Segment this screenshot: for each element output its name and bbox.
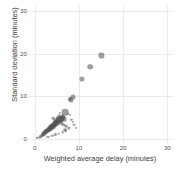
data-point — [88, 64, 94, 70]
data-point — [58, 132, 60, 134]
data-point — [99, 53, 104, 58]
x-axis-tick-labels: 0102030 — [0, 144, 176, 154]
gridline-horizontal — [28, 139, 174, 140]
y-axis-tick-labels: 0102030 — [7, 0, 27, 150]
data-point — [51, 134, 53, 136]
gridline-horizontal — [28, 96, 174, 97]
y-tick-label: 10 — [11, 92, 27, 99]
x-tick-label: 10 — [70, 144, 88, 151]
data-point — [54, 133, 56, 135]
data-point — [69, 114, 71, 116]
x-tick-label: 0 — [26, 144, 44, 151]
gridline-vertical — [123, 5, 124, 145]
data-point — [63, 128, 67, 132]
y-tick-label: 0 — [11, 135, 27, 142]
data-point — [39, 136, 42, 139]
data-point — [46, 136, 48, 138]
gridline-vertical — [79, 5, 80, 145]
plot-panel — [28, 5, 174, 145]
gridline-vertical — [167, 5, 168, 145]
data-point — [52, 117, 55, 120]
gridline-horizontal — [28, 11, 174, 12]
x-tick-label: 30 — [158, 144, 176, 151]
data-point — [79, 77, 84, 82]
data-point — [75, 127, 77, 129]
x-axis-title: Weighted average delay (minutes) — [26, 154, 174, 163]
x-tick-label: 20 — [114, 144, 132, 151]
scatter-chart-figure: Standard deviation (minutes) 0102030 010… — [0, 0, 176, 175]
gridline-vertical — [35, 5, 36, 145]
data-point — [48, 135, 50, 137]
y-tick-label: 20 — [11, 50, 27, 57]
y-tick-label: 30 — [11, 7, 27, 14]
data-point — [68, 126, 71, 129]
